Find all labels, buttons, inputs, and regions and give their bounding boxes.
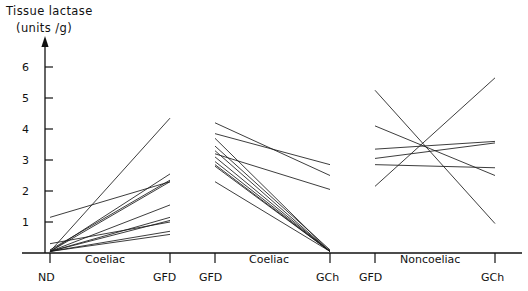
series-line — [215, 182, 330, 252]
x-tick-marks — [50, 253, 495, 263]
series-line — [50, 118, 170, 251]
chart-figure: Tissue lactase (units /g) 6 5 4 3 2 1 Co… — [0, 0, 528, 291]
series-line — [375, 165, 495, 168]
series-line — [375, 78, 495, 187]
plot-area — [0, 0, 528, 291]
series-line — [50, 222, 170, 244]
series-line — [215, 151, 330, 252]
series-line — [50, 234, 170, 251]
series-layer — [50, 78, 495, 252]
series-line — [375, 90, 495, 223]
panel-coeliac — [50, 118, 170, 251]
series-line — [215, 146, 330, 250]
panel-noncoeliac — [375, 78, 495, 224]
series-line — [215, 157, 330, 252]
series-line — [215, 134, 330, 165]
panel-coeliac-challenge — [215, 123, 330, 252]
series-line — [50, 180, 170, 250]
y-axis — [41, 36, 48, 253]
series-line — [215, 166, 330, 251]
y-tick-marks — [45, 67, 53, 222]
